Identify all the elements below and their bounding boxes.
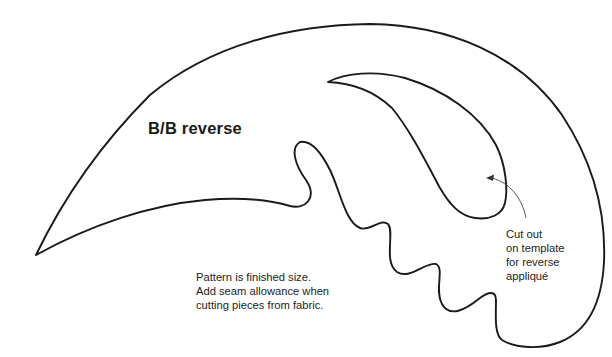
callout-line: Cut out (506, 227, 564, 241)
pattern-title: B/B reverse (148, 119, 242, 138)
callout-arrow (492, 178, 526, 218)
cutout-callout: Cut out on template for reverse appliqué (506, 227, 564, 283)
callout-line: for reverse (506, 255, 564, 269)
callout-line: appliqué (506, 269, 564, 283)
arrowhead-icon (486, 175, 494, 182)
callout-line: on template (506, 241, 564, 255)
note-line: cutting pieces from fabric. (196, 298, 329, 312)
note-line: Add seam allowance when (196, 284, 329, 298)
finished-size-note: Pattern is finished size. Add seam allow… (196, 270, 329, 312)
note-line: Pattern is finished size. (196, 270, 329, 284)
inner-cutout-outline (328, 73, 506, 218)
